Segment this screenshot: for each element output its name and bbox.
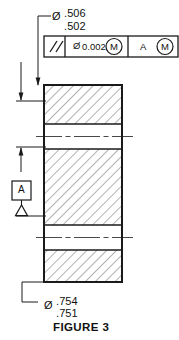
fcf-datum-reference-letter: A [140,42,146,52]
bottom-dimension-lower-limit: .751 [56,308,78,319]
top-dimension-upper-limit: .506 [64,8,86,19]
bottom-dimension-leader [22,282,44,302]
datum-feature-letter: A [18,185,25,195]
bottom-diameter-symbol: Ø [44,300,53,311]
fcf-tolerance-value: 0.002 [82,42,106,52]
vertical-dimension-line [19,62,24,172]
section-hatching [45,86,121,281]
figure-caption: FIGURE 3 [53,322,109,334]
fcf-datum-modifier-m: M [161,42,169,52]
fcf-tolerance-modifier-m: M [110,42,118,52]
drawing-canvas: Ø .506 .502 Ø 0.002 M A M A Ø .754 .751 … [0,0,179,340]
fcf-tolerance-diameter-symbol: Ø [73,41,80,51]
bottom-dimension-upper-limit: .754 [56,296,78,307]
top-dimension-lower-limit: .502 [64,21,86,32]
top-diameter-symbol: Ø [52,11,61,22]
